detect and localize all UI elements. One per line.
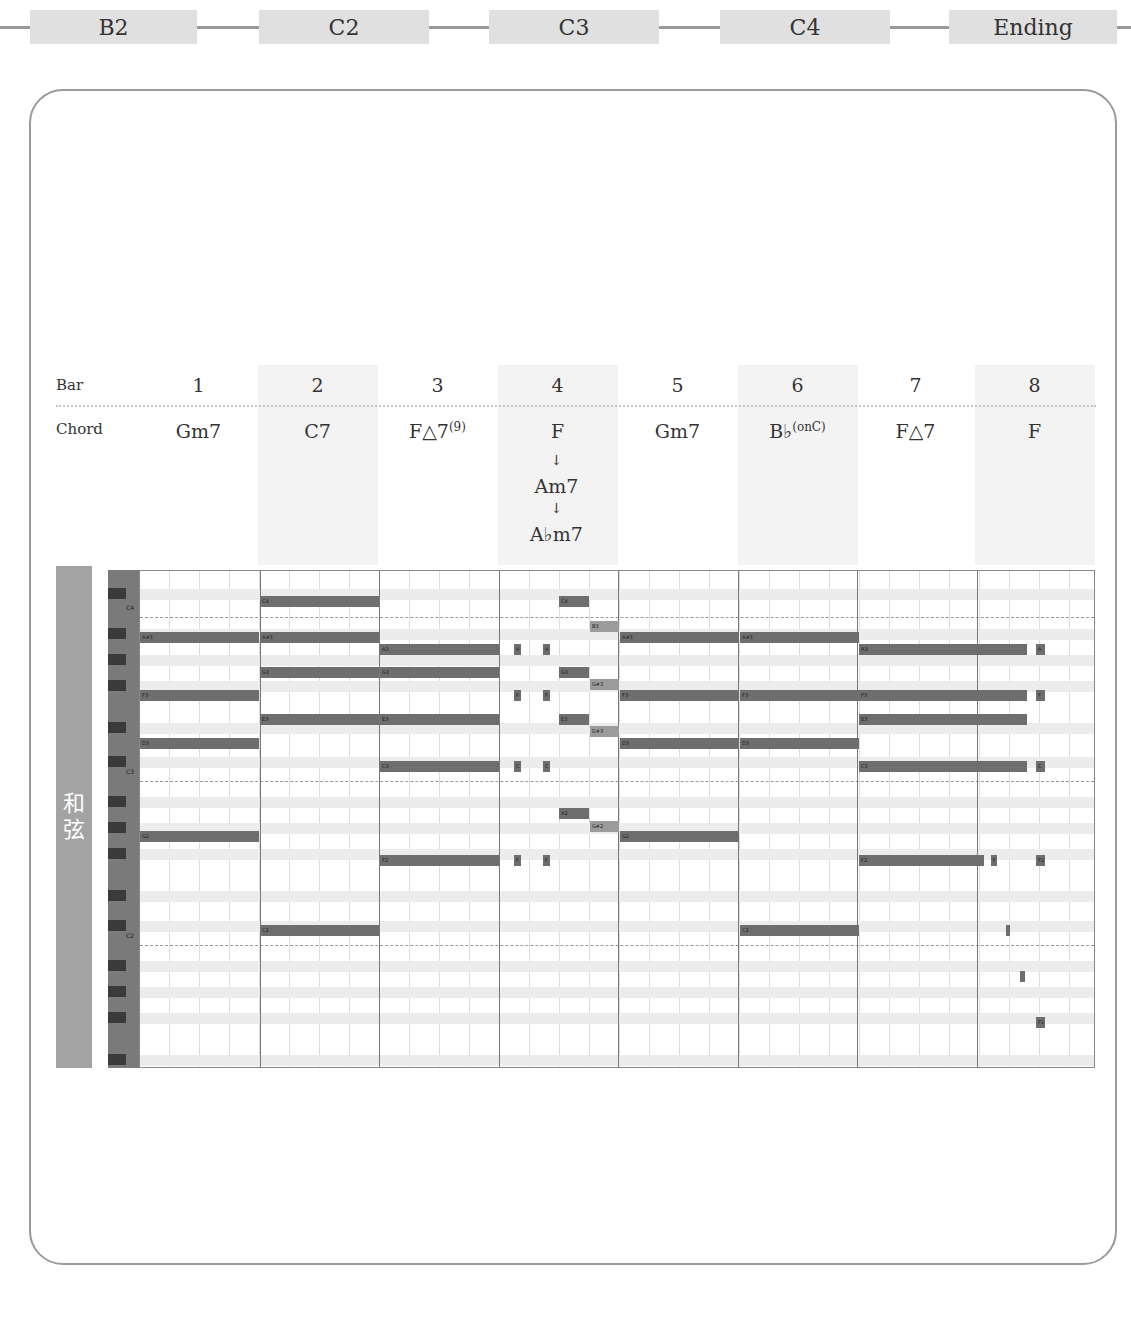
note-block[interactable]: A2 xyxy=(559,808,589,819)
note-block[interactable]: F xyxy=(543,690,550,701)
bar-line xyxy=(618,571,619,1067)
black-key-row xyxy=(140,655,1094,666)
note-block[interactable]: C xyxy=(1036,761,1045,772)
note-block[interactable]: F2 xyxy=(380,855,499,866)
note-block[interactable]: G#2 xyxy=(590,821,619,832)
note-block[interactable]: C xyxy=(543,761,550,772)
black-key xyxy=(108,848,126,859)
arrow-down-icon: ↓ xyxy=(497,452,616,468)
chord-symbol: F xyxy=(498,420,617,442)
piano-roll-grid[interactable]: A#3F3D3G2C4A#3G3E3C2A3G3E3C3F2AAFFCCFFC4… xyxy=(139,570,1095,1068)
note-block[interactable]: G#3 xyxy=(590,679,619,690)
note-block[interactable]: F xyxy=(543,855,550,866)
note-block[interactable]: A xyxy=(1036,644,1045,655)
note-block[interactable]: F3 xyxy=(140,690,259,701)
note-block[interactable]: D3 xyxy=(140,738,259,749)
note-block[interactable] xyxy=(1006,925,1010,936)
black-key xyxy=(108,654,126,665)
chord-name: Gm7 xyxy=(655,420,700,442)
black-key xyxy=(108,920,126,931)
black-key-row xyxy=(140,891,1094,902)
bar4-chord-3: A♭m7 xyxy=(497,523,616,545)
note-block[interactable]: F xyxy=(991,855,997,866)
note-block[interactable] xyxy=(1020,971,1025,982)
note-block[interactable]: A3 xyxy=(380,644,499,655)
black-key xyxy=(108,588,126,599)
black-key xyxy=(108,628,126,639)
note-block[interactable]: E3 xyxy=(559,714,589,725)
note-block[interactable]: E3 xyxy=(859,714,1027,725)
note-block[interactable]: A xyxy=(514,644,521,655)
note-block[interactable]: G3 xyxy=(260,667,379,678)
piano-keyboard: C4C3C2 xyxy=(108,570,139,1068)
note-block[interactable]: C2 xyxy=(740,925,859,936)
black-key xyxy=(108,986,126,997)
note-block[interactable]: F xyxy=(1036,690,1045,701)
note-block[interactable]: E3 xyxy=(260,714,379,725)
black-key xyxy=(108,1012,126,1023)
note-block[interactable]: A#3 xyxy=(740,632,859,643)
black-key xyxy=(108,960,126,971)
note-block[interactable]: F xyxy=(514,690,521,701)
note-block[interactable]: F3 xyxy=(740,690,859,701)
bar-number: 8 xyxy=(975,374,1094,396)
bar-row-label: Bar xyxy=(56,376,83,394)
black-key-row xyxy=(140,961,1094,972)
note-block[interactable]: G2 xyxy=(620,831,739,842)
note-block[interactable]: F3 xyxy=(859,690,1027,701)
chord-symbol: Gm7 xyxy=(139,420,258,442)
note-block[interactable]: B3 xyxy=(590,621,619,632)
bar-number: 3 xyxy=(378,374,497,396)
note-block[interactable]: D3 xyxy=(620,738,739,749)
chord-name: B♭ xyxy=(769,420,792,442)
note-block[interactable]: F1 xyxy=(1036,1017,1045,1028)
note-block[interactable]: F xyxy=(514,855,521,866)
note-block[interactable]: A#3 xyxy=(140,632,259,643)
note-block[interactable]: A3 xyxy=(859,644,1027,655)
section-box-c2: C2 xyxy=(259,10,429,44)
note-block[interactable]: A#3 xyxy=(620,632,739,643)
chord-name: F△7 xyxy=(409,420,449,442)
note-block[interactable]: F2 xyxy=(859,855,984,866)
note-block[interactable]: D3 xyxy=(740,738,859,749)
octave-label: C4 xyxy=(126,604,134,611)
black-key xyxy=(108,1054,126,1065)
note-block[interactable]: C3 xyxy=(859,761,1027,772)
section-box-c3: C3 xyxy=(489,10,659,44)
note-block[interactable]: G3 xyxy=(380,667,499,678)
note-block[interactable]: C4 xyxy=(260,596,379,607)
note-block[interactable]: C3 xyxy=(380,761,499,772)
chord-name: F xyxy=(1028,420,1041,442)
note-block[interactable]: C2 xyxy=(260,925,379,936)
note-block[interactable]: G2 xyxy=(140,831,259,842)
note-block[interactable]: C4 xyxy=(559,596,589,607)
note-block[interactable]: F3 xyxy=(620,690,739,701)
note-block[interactable]: A xyxy=(543,644,550,655)
note-block[interactable]: A#3 xyxy=(260,632,379,643)
note-block[interactable]: C xyxy=(514,761,521,772)
chord-symbol: B♭(onC) xyxy=(738,420,857,442)
bar-number: 5 xyxy=(618,374,737,396)
bar4-chord-2: Am7 xyxy=(497,475,616,497)
arrow-down-icon: ↓ xyxy=(497,500,616,516)
note-block[interactable]: E3 xyxy=(380,714,499,725)
octave-line xyxy=(140,945,1094,947)
chord-extension: (onC) xyxy=(792,420,826,434)
note-block[interactable]: F2 xyxy=(1036,855,1045,866)
bar-line xyxy=(857,571,858,1067)
black-key xyxy=(108,796,126,807)
chord-name: F△7 xyxy=(896,420,936,442)
bar-number: 1 xyxy=(139,374,258,396)
note-block[interactable]: D#3 xyxy=(590,726,619,737)
octave-line xyxy=(140,617,1094,619)
bar-line xyxy=(738,571,739,1067)
note-block[interactable]: G3 xyxy=(559,667,589,678)
chord-symbol: F△7 xyxy=(856,420,975,442)
section-box-ending: Ending xyxy=(949,10,1117,44)
section-flow: B2C2C3C4Ending xyxy=(0,0,1131,60)
section-box-c4: C4 xyxy=(720,10,890,44)
octave-label: C2 xyxy=(126,932,134,939)
track-label: 和 弦 xyxy=(56,566,92,1068)
bar-number: 6 xyxy=(738,374,857,396)
chord-name: F xyxy=(551,420,564,442)
